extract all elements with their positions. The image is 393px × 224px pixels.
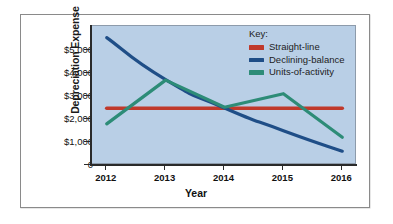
legend-swatch-units-of-activity (249, 70, 264, 75)
y-tick-mark-3000 (84, 95, 91, 96)
x-tick-mark-2015 (282, 164, 283, 170)
legend-title: Key: (249, 29, 359, 39)
legend-item-declining-balance: Declining-balance (249, 54, 359, 66)
chart-figure: Depreciation Expense $5,000 $4,000 $3,00… (0, 0, 393, 224)
legend-label-straight-line: Straight-line (269, 42, 320, 52)
chart-legend: Key: Straight-line Declining-balance Uni… (249, 29, 359, 79)
y-tick-mark-0 (84, 164, 91, 165)
x-tick-mark-2014 (223, 164, 224, 170)
x-tick-label-2016: 2016 (321, 172, 361, 183)
y-tick-mark-4000 (84, 72, 91, 73)
x-tick-mark-2013 (164, 164, 165, 170)
x-axis-title: Year (21, 187, 371, 199)
y-tick-mark-5000 (84, 49, 91, 50)
legend-item-units-of-activity: Units-of-activity (249, 67, 359, 79)
x-tick-label-2014: 2014 (204, 172, 244, 183)
y-axis-title: Depreciation Expense (68, 0, 82, 120)
x-tick-mark-2016 (341, 164, 342, 170)
x-tick-label-2013: 2013 (145, 172, 185, 183)
x-tick-label-2015: 2015 (262, 172, 302, 183)
legend-swatch-declining-balance (249, 58, 264, 63)
chart-card: Depreciation Expense $5,000 $4,000 $3,00… (20, 14, 370, 208)
y-tick-mark-1000 (84, 141, 91, 142)
x-tick-label-2012: 2012 (86, 172, 126, 183)
legend-label-units-of-activity: Units-of-activity (269, 67, 334, 77)
y-tick-mark-2000 (84, 118, 91, 119)
legend-item-straight-line: Straight-line (249, 42, 359, 54)
legend-label-declining-balance: Declining-balance (269, 55, 345, 65)
legend-swatch-straight-line (249, 45, 264, 50)
x-tick-mark-2012 (105, 164, 106, 170)
